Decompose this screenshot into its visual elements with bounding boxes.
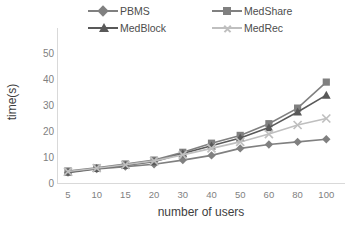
data-point-pbms (265, 140, 273, 148)
x-tick-label: 100 (314, 190, 338, 200)
data-point-medblock (322, 91, 331, 99)
x-tick-label: 30 (171, 190, 195, 200)
data-point-pbms (322, 135, 330, 143)
x-axis-ticks: 51015203040506080100 (0, 190, 355, 204)
x-tick-label: 60 (257, 190, 281, 200)
x-tick-label: 80 (286, 190, 310, 200)
series-line-medrec (68, 119, 326, 172)
x-axis-title: number of users (57, 205, 345, 219)
x-tick-label: 50 (228, 190, 252, 200)
data-point-pbms (293, 138, 301, 146)
x-tick-label: 5 (56, 190, 80, 200)
y-axis-title: time(s) (5, 62, 19, 142)
x-tick-label: 40 (200, 190, 224, 200)
chart-container: PBMS MedShare MedBlock MedRec 504030201 (0, 0, 355, 230)
data-point-medshare (323, 79, 330, 86)
x-tick-label: 15 (113, 190, 137, 200)
series-line-medblock (68, 95, 326, 172)
x-tick-label: 20 (142, 190, 166, 200)
x-tick-label: 10 (85, 190, 109, 200)
